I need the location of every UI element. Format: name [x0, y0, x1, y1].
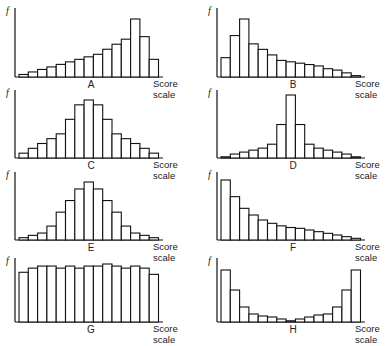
histogram-C	[15, 90, 163, 158]
histogram-bar	[333, 307, 342, 322]
panel-label-G: G	[87, 325, 95, 335]
histogram-bar	[286, 62, 295, 77]
histogram-bar	[342, 237, 351, 240]
histogram-bar	[131, 19, 140, 77]
histogram-bar	[221, 180, 230, 240]
histogram-bar	[131, 144, 140, 159]
histogram-bar	[149, 153, 158, 158]
histogram-bar	[249, 314, 258, 322]
histogram-bar	[258, 316, 267, 322]
histogram-bar	[28, 268, 37, 322]
histogram-bar	[277, 60, 286, 77]
histogram-bar	[47, 266, 56, 322]
histogram-bar	[112, 266, 121, 322]
histogram-G	[15, 258, 163, 322]
x-axis-label: Scorescale	[153, 241, 178, 263]
histogram-bar	[295, 319, 304, 322]
x-axis-label: Scorescale	[355, 159, 380, 181]
histogram-bar	[149, 274, 158, 322]
histogram-bar	[240, 152, 249, 158]
panel-label-D: D	[289, 161, 296, 171]
histogram-bar	[240, 307, 249, 322]
histogram-bar	[258, 49, 267, 77]
panel-label-E: E	[88, 243, 95, 253]
histogram-bar	[112, 134, 121, 158]
y-axis-label: f	[208, 6, 211, 16]
histogram-bar	[149, 59, 158, 77]
histogram-F	[217, 172, 365, 240]
x-axis-label: Scorescale	[355, 78, 380, 100]
histogram-bar	[149, 238, 158, 240]
histogram-bar	[333, 235, 342, 240]
histogram-D	[217, 90, 365, 158]
panel-label-H: H	[289, 325, 296, 335]
histogram-bar	[103, 119, 112, 158]
histogram-bar	[230, 197, 239, 240]
histogram-bar	[38, 233, 47, 240]
histogram-B	[217, 8, 365, 77]
histogram-bar	[314, 315, 323, 322]
x-axis-label: Scorescale	[355, 323, 380, 345]
histogram-bar	[121, 39, 130, 77]
histogram-bar	[93, 54, 102, 77]
histogram-bar	[131, 233, 140, 240]
histogram-bar	[84, 182, 93, 240]
histogram-bar	[351, 270, 360, 322]
histogram-bar	[121, 226, 130, 240]
histogram-bar	[268, 317, 277, 322]
histogram-bar	[295, 125, 304, 158]
histogram-bar	[84, 266, 93, 322]
histogram-bar	[333, 70, 342, 77]
histogram-bar	[103, 264, 112, 322]
y-axis-label: f	[6, 170, 9, 180]
histogram-bar	[75, 268, 84, 322]
histogram-bar	[56, 268, 65, 322]
histogram-bar	[66, 62, 75, 77]
histogram-bar	[47, 226, 56, 240]
histogram-bar	[314, 148, 323, 158]
histogram-bar	[342, 73, 351, 77]
histogram-grid	[0, 0, 385, 346]
histogram-bar	[305, 317, 314, 322]
histogram-bar	[28, 72, 37, 77]
histogram-bar	[75, 59, 84, 77]
histogram-bar	[19, 272, 28, 322]
histogram-bar	[295, 228, 304, 240]
histogram-bar	[84, 57, 93, 77]
histogram-bar	[140, 235, 149, 240]
histogram-bar	[268, 144, 277, 158]
histogram-bar	[314, 66, 323, 77]
histogram-bar	[47, 139, 56, 158]
histogram-bar	[277, 319, 286, 322]
histogram-bar	[38, 144, 47, 159]
histogram-bar	[230, 290, 239, 322]
histogram-bar	[66, 201, 75, 240]
histogram-bar	[93, 189, 102, 240]
histogram-bar	[140, 37, 149, 77]
x-axis-label: Scorescale	[153, 78, 178, 100]
histogram-bar	[28, 148, 37, 158]
histogram-bar	[112, 44, 121, 77]
histogram-bar	[351, 76, 360, 77]
histogram-bar	[277, 226, 286, 240]
histogram-bar	[93, 105, 102, 158]
histogram-bar	[268, 223, 277, 240]
histogram-bar	[295, 63, 304, 77]
histogram-E	[15, 172, 163, 240]
histogram-bar	[66, 266, 75, 322]
x-axis-label: Scorescale	[153, 323, 178, 345]
panel-label-C: C	[87, 161, 94, 171]
histogram-bar	[93, 266, 102, 322]
histogram-bar	[286, 228, 295, 241]
histogram-bar	[258, 148, 267, 158]
histogram-bar	[56, 212, 65, 240]
histogram-bar	[140, 148, 149, 158]
panel-label-B: B	[290, 80, 297, 90]
y-axis-label: f	[208, 256, 211, 266]
x-axis-label: Scorescale	[153, 159, 178, 181]
histogram-bar	[342, 154, 351, 158]
histogram-bar	[75, 189, 84, 240]
histogram-bar	[75, 105, 84, 158]
histogram-bar	[19, 74, 28, 77]
histogram-bar	[112, 212, 121, 240]
